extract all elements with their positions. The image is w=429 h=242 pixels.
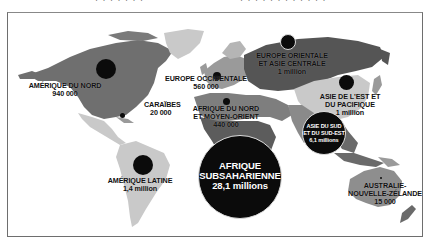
label-eastern-europe-central-asia: EUROPE ORIENTALE ET ASIE CENTRALE 1 mill… xyxy=(256,52,328,76)
bubble-caribbean xyxy=(120,113,125,118)
label-anz-value: 15 000 xyxy=(348,198,422,206)
bubble-latin-america xyxy=(133,155,153,175)
label-eap-value: 1 million xyxy=(320,109,380,117)
cropped-title-right: · · · · · · · · · · · · xyxy=(240,0,326,5)
label-western-europe: EUROPE OCCIDENTALE 560 000 xyxy=(165,75,247,91)
label-latin-america-value: 1,4 million xyxy=(108,185,173,193)
bubble-north-america xyxy=(96,59,116,79)
label-eeca-value: 1 million xyxy=(256,68,328,76)
label-ssea-name-1: ASIE DU SUD xyxy=(303,123,345,130)
label-ssa-value: 28,1 millions xyxy=(199,181,281,191)
label-subsaharan-africa: AFRIQUE SUBSAHARIENNE 28,1 millions xyxy=(199,161,281,191)
label-north-america-value: 940 000 xyxy=(29,90,102,98)
cropped-title-left: · · · · · · · xyxy=(95,0,144,5)
bubble-eastern-europe-central-asia xyxy=(280,34,296,50)
label-caribbean: CARAÏBES 20 000 xyxy=(144,101,181,117)
landmass-scandinavia xyxy=(222,41,246,59)
label-western-europe-value: 560 000 xyxy=(165,83,247,91)
bubble-australia-nz xyxy=(380,177,382,179)
world-map-frame: AMÉRIQUE DU NORD 940 000 CARAÏBES 20 000… xyxy=(7,12,423,237)
bubble-east-asia-pacific xyxy=(339,75,354,90)
label-nafme-value: 440 000 xyxy=(193,121,259,129)
cropped-title-fragment: · · · · · · · · · · · · · · · · · · · xyxy=(0,0,429,8)
label-east-asia-pacific: ASIE DE L'EST ET DU PACIFIQUE 1 million xyxy=(320,93,380,117)
landmass-kamchatka xyxy=(380,49,390,65)
label-ssea-name-2: ET DU SUD-EST xyxy=(303,130,345,137)
label-south-southeast-asia: ASIE DU SUD ET DU SUD-EST 6,1 millions xyxy=(303,123,345,144)
label-north-america: AMÉRIQUE DU NORD 940 000 xyxy=(29,82,102,98)
landmass-caribbean xyxy=(116,117,134,123)
label-australia-nz: AUSTRALIE- NOUVELLE-ZÉLANDE 15 000 xyxy=(348,182,422,206)
label-ssea-value: 6,1 millions xyxy=(303,137,345,144)
landmass-papua xyxy=(378,157,400,167)
label-north-africa-middle-east: AFRIQUE DU NORD ET MOYEN-ORIENT 440 000 xyxy=(193,105,259,129)
landmass-new-zealand xyxy=(400,205,416,223)
landmass-indonesia xyxy=(334,153,384,167)
label-latin-america: AMÉRIQUE LATINE 1,4 million xyxy=(108,177,173,193)
label-caribbean-value: 20 000 xyxy=(144,109,181,117)
landmass-arctic-islands xyxy=(108,31,158,41)
